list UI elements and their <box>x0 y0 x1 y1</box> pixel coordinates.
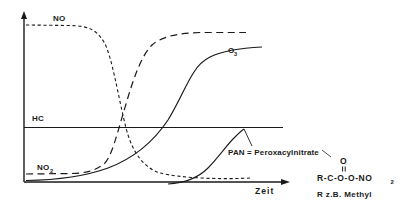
label-hc: HC <box>32 114 44 123</box>
label-no2: NO 2 <box>37 163 53 174</box>
pan-leader-line <box>244 129 252 146</box>
y-axis-arrowhead <box>21 11 27 19</box>
pollution-curves-figure: NO NO 2 HC O 3 PAN = Peroxacylnitrate Ze… <box>0 0 403 209</box>
curve-no <box>26 25 252 179</box>
label-pan: PAN = Peroxacylnitrate <box>228 148 319 157</box>
formula-chain: R-C-O-O-NO <box>317 173 373 183</box>
label-no2-base: NO <box>37 163 49 172</box>
x-axis-arrowhead <box>281 179 290 185</box>
formula-carbonyl-oxygen: O <box>340 156 347 166</box>
label-no: NO <box>53 14 65 23</box>
axis-group <box>21 11 290 185</box>
formula-note: R z.B. Methyl <box>317 190 372 199</box>
formula-leader-line <box>322 150 331 157</box>
diagram-svg: NO NO 2 HC O 3 PAN = Peroxacylnitrate Ze… <box>0 0 403 209</box>
curve-o3 <box>26 47 262 181</box>
label-no2-subscript: 2 <box>50 168 53 174</box>
formula-chain-subscript: 2 <box>391 179 395 185</box>
label-o3: O 3 <box>228 46 237 57</box>
label-o3-subscript: 3 <box>234 51 237 57</box>
x-axis-label: Zeit <box>255 186 275 196</box>
formula-group: O R-C-O-O-NO 2 R z.B. Methyl <box>317 150 395 199</box>
